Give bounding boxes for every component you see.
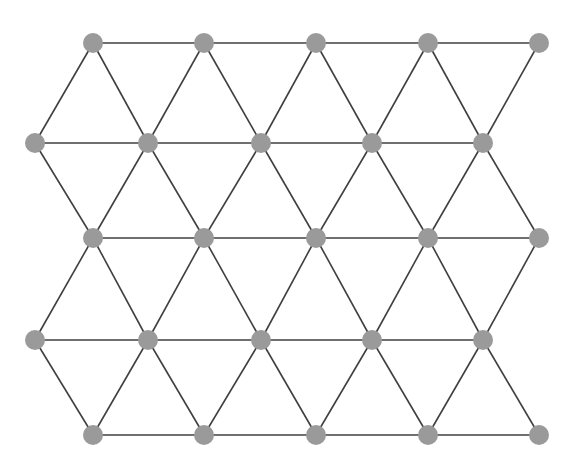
lattice-node (251, 133, 271, 153)
lattice-edge (316, 43, 372, 143)
lattice-node (306, 425, 326, 445)
lattice-node (25, 133, 45, 153)
lattice-node (362, 330, 382, 350)
lattice-edge (428, 340, 483, 435)
lattice-node (529, 228, 549, 248)
lattice-node (362, 133, 382, 153)
lattice-node (529, 33, 549, 53)
lattice-edge (204, 43, 261, 143)
lattice-edge (372, 340, 428, 435)
lattice-edge (483, 143, 539, 238)
lattice-edge (93, 43, 148, 143)
lattice-edge (372, 43, 428, 143)
lattice-node (306, 33, 326, 53)
lattice-edge (428, 238, 483, 340)
lattice-edge (148, 143, 204, 238)
lattice-node (529, 425, 549, 445)
lattice-edge (93, 340, 148, 435)
lattice-edge (35, 340, 93, 435)
lattice-edge (148, 340, 204, 435)
lattice-edge (35, 143, 93, 238)
lattice-node (418, 33, 438, 53)
lattice-node (83, 33, 103, 53)
lattice-node (306, 228, 326, 248)
edge-layer (35, 43, 539, 435)
lattice-node (138, 330, 158, 350)
lattice-edge (204, 238, 261, 340)
lattice-node (194, 33, 214, 53)
lattice-node (194, 425, 214, 445)
lattice-node (418, 228, 438, 248)
lattice-node (25, 330, 45, 350)
triangular-lattice-figure (0, 0, 576, 472)
lattice-edge (204, 340, 261, 435)
lattice-edge (35, 238, 93, 340)
lattice-node (251, 330, 271, 350)
lattice-node (473, 133, 493, 153)
lattice-edge (316, 340, 372, 435)
lattice-edge (148, 238, 204, 340)
lattice-edge (204, 143, 261, 238)
lattice-edge (35, 43, 93, 143)
lattice-edge (372, 238, 428, 340)
lattice-edge (148, 43, 204, 143)
lattice-node (83, 425, 103, 445)
lattice-edge (483, 238, 539, 340)
lattice-node (83, 228, 103, 248)
lattice-node (194, 228, 214, 248)
lattice-edge (483, 340, 539, 435)
lattice-edge (428, 143, 483, 238)
lattice-edge (428, 43, 483, 143)
lattice-edge (261, 43, 316, 143)
lattice-edge (261, 340, 316, 435)
lattice-edge (483, 43, 539, 143)
lattice-node (138, 133, 158, 153)
lattice-edge (93, 143, 148, 238)
lattice-edge (316, 143, 372, 238)
lattice-edge (316, 238, 372, 340)
lattice-edge (261, 238, 316, 340)
lattice-canvas (0, 0, 576, 472)
lattice-edge (93, 238, 148, 340)
lattice-node (473, 330, 493, 350)
lattice-node (418, 425, 438, 445)
lattice-edge (372, 143, 428, 238)
lattice-edge (261, 143, 316, 238)
